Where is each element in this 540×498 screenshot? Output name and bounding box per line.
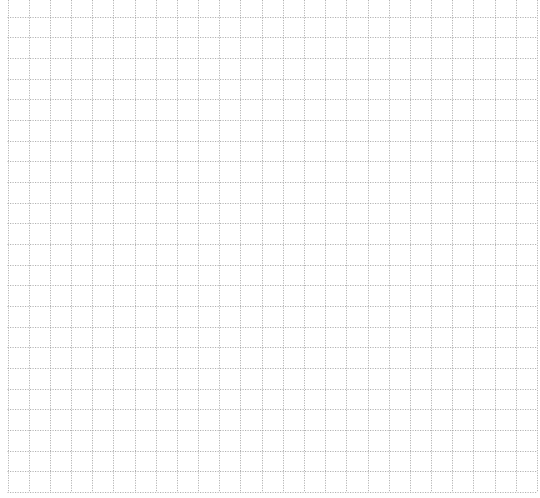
grid-paper [0,0,540,498]
